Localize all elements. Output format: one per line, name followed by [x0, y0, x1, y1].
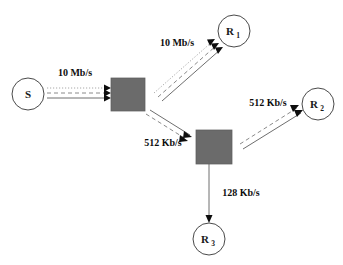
receiver-2-circle	[302, 88, 334, 120]
receiver-1-label: R	[226, 25, 235, 37]
arrowhead-icon	[183, 131, 192, 138]
arrowhead-icon	[206, 215, 213, 223]
node-router-2[interactable]	[196, 130, 232, 164]
receiver-3-subscript: 3	[211, 239, 215, 248]
link-router1-router2: 512 Kb/s	[144, 110, 192, 148]
flow-line-dashed	[158, 45, 217, 97]
receiver-2-subscript: 2	[320, 104, 324, 113]
router-1-box	[111, 78, 145, 111]
arrowhead-icon	[104, 95, 111, 102]
receiver-3-label: R	[201, 233, 210, 245]
link-router2-receiver2: 512 Kb/s	[240, 97, 303, 149]
link-source-router1: 10 Mb/s	[47, 67, 111, 102]
network-diagram: 10 Mb/s 10 Mb/s 512 Kb/s 512 Kb/s	[0, 0, 343, 265]
receiver-2-label: R	[310, 98, 319, 110]
source-label: S	[25, 88, 31, 100]
flow-line-solid	[162, 49, 221, 101]
link-router2-receiver3: 128 Kb/s	[206, 164, 260, 223]
link-label-router1-receiver1: 10 Mb/s	[160, 37, 194, 48]
receiver-3-circle	[193, 223, 225, 255]
receiver-1-subscript: 1	[236, 31, 240, 40]
link-label-router2-receiver3: 128 Kb/s	[222, 187, 260, 198]
flow-line-dotted	[154, 41, 213, 93]
link-label-router1-router2: 512 Kb/s	[144, 137, 182, 148]
node-receiver-3[interactable]: R 3	[193, 223, 225, 255]
flow-line-solid	[243, 113, 301, 149]
diagram-canvas: 10 Mb/s 10 Mb/s 512 Kb/s 512 Kb/s	[0, 0, 343, 265]
node-router-1[interactable]	[111, 78, 145, 111]
link-router1-receiver1: 10 Mb/s	[154, 37, 223, 101]
node-receiver-2[interactable]: R 2	[302, 88, 334, 120]
node-receiver-1[interactable]: R 1	[218, 15, 250, 47]
router-2-box	[196, 130, 232, 164]
receiver-1-circle	[218, 15, 250, 47]
link-label-router2-receiver2: 512 Kb/s	[249, 97, 287, 108]
link-label-source-router1: 10 Mb/s	[58, 67, 92, 78]
node-source[interactable]: S	[12, 78, 44, 110]
flow-line-dashed	[240, 108, 297, 144]
